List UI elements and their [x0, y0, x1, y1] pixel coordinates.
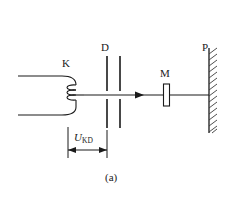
filament-coil-icon	[67, 85, 76, 107]
voltage-symbol: U	[74, 131, 82, 143]
physics-figure: K D M P UKD (a)	[0, 0, 227, 201]
wall-hatching	[209, 48, 217, 133]
screen-wall-P	[209, 48, 217, 133]
label-plates-D: D	[101, 42, 109, 53]
cathode-upper-lead	[18, 76, 76, 85]
dimension-arrow-right-icon	[99, 147, 107, 153]
label-cathode-K: K	[62, 58, 70, 69]
label-target-M: M	[160, 68, 170, 79]
dimension-arrow-left-icon	[68, 147, 76, 153]
cathode-lower-lead	[18, 107, 76, 115]
label-screen-P: P	[202, 42, 208, 53]
beam-direction-arrow-icon	[135, 92, 144, 99]
figure-caption: (a)	[105, 172, 117, 183]
electron-beam-line	[84, 92, 209, 99]
voltage-subscript: KD	[82, 136, 93, 145]
label-voltage-ukd: UKD	[74, 132, 93, 143]
aperture-plates-D	[107, 56, 120, 128]
target-M-rect	[164, 84, 170, 106]
cathode-assembly	[18, 76, 84, 115]
